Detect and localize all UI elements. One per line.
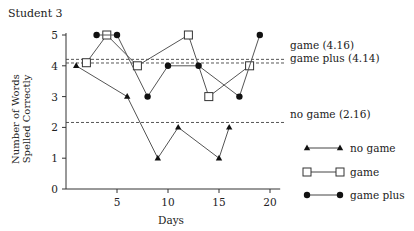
square-marker: [82, 59, 90, 67]
square-marker: [336, 168, 344, 176]
legend-item-game: game: [303, 166, 379, 178]
square-marker: [303, 168, 311, 176]
reference-line-label: game (4.16): [290, 39, 354, 51]
circle-marker: [165, 63, 171, 69]
square-marker: [184, 31, 192, 39]
circle-marker: [236, 93, 242, 99]
x-tick-label: 10: [161, 196, 174, 208]
y-tick-label: 2: [51, 121, 58, 133]
x-tick-label: 15: [212, 196, 225, 208]
y-tick-label: 5: [51, 29, 58, 41]
triangle-marker: [175, 124, 181, 130]
reference-lines: game (4.16)game plus (4.14)no game (2.16…: [66, 39, 380, 122]
chart-plot: 0123455101520 game (4.16)game plus (4.14…: [0, 0, 414, 231]
y-tick-label: 1: [51, 152, 58, 164]
y-tick-label: 4: [51, 60, 58, 72]
triangle-marker: [226, 124, 232, 130]
legend-label: no game: [350, 142, 396, 154]
triangle-marker: [216, 155, 222, 161]
circle-marker: [257, 32, 263, 38]
series-group: [73, 31, 263, 160]
square-marker: [133, 62, 141, 70]
series-no-game: [73, 62, 232, 160]
triangle-marker: [304, 145, 310, 151]
axes: 0123455101520: [51, 29, 280, 208]
circle-marker: [304, 192, 310, 198]
legend-item-game-plus: game plus: [304, 189, 405, 201]
reference-line-label: game plus (4.14): [290, 52, 380, 64]
series-line: [97, 35, 260, 97]
triangle-marker: [337, 145, 343, 151]
x-tick-label: 5: [114, 196, 121, 208]
square-marker: [205, 93, 213, 101]
y-tick-label: 0: [51, 183, 58, 195]
triangle-marker: [124, 93, 130, 99]
x-tick-label: 20: [263, 196, 276, 208]
circle-marker: [337, 192, 343, 198]
series-line: [76, 66, 229, 158]
series-game-plus: [93, 32, 263, 100]
legend: no gamegamegame plus: [303, 142, 405, 201]
circle-marker: [195, 63, 201, 69]
circle-marker: [114, 32, 120, 38]
reference-line-label: no game (2.16): [290, 108, 370, 120]
legend-label: game plus: [350, 189, 405, 201]
y-tick-label: 3: [51, 91, 58, 103]
circle-marker: [144, 93, 150, 99]
circle-marker: [93, 32, 99, 38]
legend-item-no-game: no game: [304, 142, 396, 154]
legend-label: game: [350, 166, 379, 178]
